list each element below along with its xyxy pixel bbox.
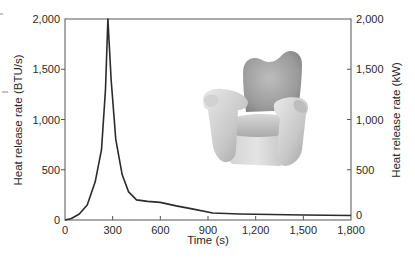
x-tick-label: 600: [151, 224, 169, 236]
y-axis-left-ticks: 05001,0001,5002,000: [32, 13, 65, 226]
y-tick-label-right: 500: [356, 164, 374, 176]
x-tick-label: 1,800: [337, 224, 365, 236]
y-axis-right-ticks: 05001,0001,5002,000: [347, 13, 384, 221]
y-tick-label-left: 1,000: [32, 114, 60, 126]
y-tick-label-left: 2,000: [32, 13, 60, 25]
heat-release-chart: 03006009001,2001,5001,800 05001,0001,500…: [0, 0, 415, 262]
x-tick-label: 0: [62, 224, 68, 236]
y-tick-label-left: 0: [54, 214, 60, 226]
x-tick-label: 1,200: [242, 224, 270, 236]
x-tick-label: 1,500: [290, 224, 318, 236]
y-tick-label-left: 500: [42, 164, 60, 176]
plot-frame: [65, 19, 351, 220]
y-tick-label-right: 1,500: [356, 63, 384, 75]
x-axis-ticks: 03006009001,2001,5001,800: [62, 216, 365, 236]
y-axis-title-left: Heat release rate (BTU/s): [12, 54, 24, 185]
heat-release-curve: [65, 19, 351, 220]
x-axis-title: Time (s): [187, 234, 229, 246]
x-tick-label: 300: [103, 224, 121, 236]
y-tick-label-right: 0: [356, 209, 362, 221]
y-tick-label-right: 1,000: [356, 114, 384, 126]
y-tick-label-left: 1,500: [32, 63, 60, 75]
armchair-illustration: [203, 51, 308, 166]
y-tick-label-right: 2,000: [356, 13, 384, 25]
y-axis-title-right: Heat release rate (kW): [390, 62, 402, 178]
